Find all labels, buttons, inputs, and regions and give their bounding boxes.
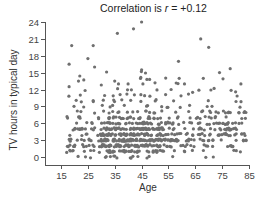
data-point (123, 104, 126, 107)
data-point (156, 128, 159, 131)
data-point (116, 111, 119, 114)
data-point (239, 82, 242, 85)
data-point (182, 121, 185, 124)
data-point (227, 111, 230, 114)
data-point (82, 78, 85, 81)
data-point (113, 80, 116, 83)
data-point (80, 100, 83, 103)
x-tick-label: 15 (56, 170, 67, 181)
data-point (92, 44, 95, 47)
data-point (214, 110, 217, 113)
data-point (104, 139, 107, 142)
data-point (98, 151, 101, 154)
data-point (119, 132, 122, 135)
data-point (116, 87, 119, 90)
data-point (238, 106, 241, 109)
y-tick-label: 12 (28, 85, 39, 96)
data-point (82, 105, 85, 108)
data-point (139, 100, 142, 103)
data-point (199, 117, 202, 120)
data-point (239, 100, 242, 103)
data-point (128, 121, 131, 124)
y-tick-label: 9 (34, 101, 39, 112)
scatter-plot: 036912151821241525354555657585 Age TV ho… (0, 0, 267, 209)
data-point (65, 151, 68, 154)
data-point (76, 139, 79, 142)
data-point (111, 122, 114, 125)
y-tick-label: 15 (28, 68, 39, 79)
data-point (203, 143, 206, 146)
data-point (100, 145, 103, 148)
data-point (192, 145, 195, 148)
data-point (114, 144, 117, 147)
data-point (119, 93, 122, 96)
data-point (153, 117, 156, 120)
data-point (136, 110, 139, 113)
data-point (129, 139, 132, 142)
data-point (175, 132, 178, 135)
data-point (193, 138, 196, 141)
data-point (159, 134, 162, 137)
data-point (105, 155, 108, 158)
data-point (224, 132, 227, 135)
x-tick-label: 55 (163, 170, 174, 181)
data-point (235, 128, 238, 131)
x-tick-label: 65 (190, 170, 201, 181)
data-point (137, 117, 140, 120)
data-point (177, 60, 180, 63)
data-point (202, 149, 205, 152)
data-point (126, 139, 129, 142)
data-point (123, 149, 126, 152)
data-point (166, 139, 169, 142)
data-point (103, 94, 106, 97)
data-point (174, 111, 177, 114)
data-point (176, 82, 179, 85)
data-point (227, 134, 230, 137)
data-point (171, 155, 174, 158)
data-point (188, 121, 191, 124)
data-point (192, 127, 195, 130)
data-point (109, 134, 112, 137)
data-point (221, 122, 224, 125)
data-point (141, 82, 144, 85)
data-point (79, 110, 82, 113)
data-point (108, 111, 111, 114)
data-point (147, 134, 150, 137)
data-point (211, 145, 214, 148)
data-point (223, 128, 226, 131)
data-point (140, 132, 143, 135)
data-point (132, 27, 135, 30)
data-point (106, 139, 109, 142)
data-point (179, 144, 182, 147)
data-point (203, 134, 206, 137)
data-point (67, 95, 70, 98)
data-point (112, 138, 115, 141)
data-point (68, 138, 71, 141)
data-point (244, 111, 247, 114)
data-point (233, 133, 236, 136)
data-point (125, 93, 128, 96)
data-point (206, 105, 209, 108)
data-point (90, 121, 93, 124)
data-point (234, 90, 237, 93)
data-point (144, 71, 147, 74)
data-point (218, 122, 221, 125)
data-point (111, 110, 114, 113)
data-point (159, 117, 162, 120)
data-point (128, 145, 131, 148)
data-point (209, 127, 212, 130)
data-point (125, 122, 128, 125)
data-point (114, 134, 117, 137)
data-point (225, 115, 228, 118)
data-point (77, 155, 80, 158)
data-point (122, 140, 125, 143)
data-point (183, 150, 186, 153)
data-point (229, 67, 232, 70)
data-point (68, 134, 71, 137)
data-point (76, 109, 79, 112)
y-tick-label: 6 (34, 118, 39, 129)
y-tick-label: 21 (28, 34, 39, 45)
data-point (203, 128, 206, 131)
data-point (139, 138, 142, 141)
data-point (163, 139, 166, 142)
